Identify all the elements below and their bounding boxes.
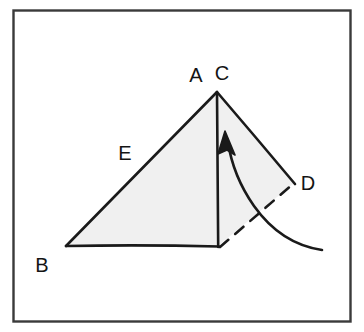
vertex-label-a: A <box>189 64 203 86</box>
vertex-label-d: D <box>301 172 315 194</box>
vertex-label-b: B <box>35 254 48 276</box>
altitude-segment-af <box>217 92 218 247</box>
diagram-canvas: A C B D E <box>0 0 364 332</box>
base-segment-bd <box>66 245 219 246</box>
vertex-label-e: E <box>118 142 131 164</box>
geometry-figure: A C B D E <box>0 0 364 332</box>
vertex-label-c: C <box>215 62 229 84</box>
